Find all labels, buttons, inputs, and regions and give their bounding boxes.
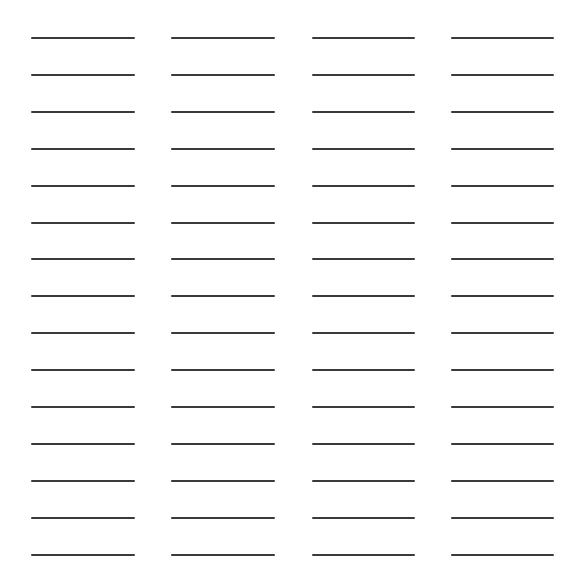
- blank-line-r7-c4: [451, 258, 554, 260]
- blank-line-r6-c2: [171, 222, 275, 224]
- blank-line-r2-c2: [171, 74, 275, 76]
- blank-line-r2-c1: [31, 74, 135, 76]
- blank-line-r8-c2: [171, 295, 275, 297]
- blank-line-r6-c1: [31, 222, 135, 224]
- blank-line-r13-c2: [171, 480, 275, 482]
- blank-line-r12-c2: [171, 443, 275, 445]
- blank-line-r15-c3: [312, 554, 415, 556]
- blank-line-r4-c3: [312, 148, 415, 150]
- blank-line-r14-c2: [171, 517, 275, 519]
- blank-line-r3-c4: [451, 111, 554, 113]
- blank-line-r11-c1: [31, 406, 135, 408]
- blank-line-r11-c4: [451, 406, 554, 408]
- blank-line-r10-c3: [312, 369, 415, 371]
- blank-line-r3-c2: [171, 111, 275, 113]
- blank-line-r10-c4: [451, 369, 554, 371]
- blank-line-r2-c3: [312, 74, 415, 76]
- blank-line-r1-c1: [31, 37, 135, 39]
- blank-line-r5-c4: [451, 185, 554, 187]
- blank-line-r4-c1: [31, 148, 135, 150]
- blank-line-r4-c2: [171, 148, 275, 150]
- blank-line-r11-c2: [171, 406, 275, 408]
- blank-line-r15-c1: [31, 554, 135, 556]
- blank-line-r10-c2: [171, 369, 275, 371]
- blank-line-r1-c3: [312, 37, 415, 39]
- blank-line-r13-c4: [451, 480, 554, 482]
- blank-line-r14-c4: [451, 517, 554, 519]
- blank-line-r1-c2: [171, 37, 275, 39]
- blank-line-r15-c4: [451, 554, 554, 556]
- blank-line-r13-c1: [31, 480, 135, 482]
- blank-line-r12-c4: [451, 443, 554, 445]
- blank-line-r13-c3: [312, 480, 415, 482]
- blank-line-r7-c2: [171, 258, 275, 260]
- blank-line-r15-c2: [171, 554, 275, 556]
- blank-line-r7-c3: [312, 258, 415, 260]
- blank-line-r5-c2: [171, 185, 275, 187]
- blank-line-r2-c4: [451, 74, 554, 76]
- blank-line-r1-c4: [451, 37, 554, 39]
- blank-line-r9-c4: [451, 332, 554, 334]
- blank-line-r3-c3: [312, 111, 415, 113]
- blank-line-r6-c3: [312, 222, 415, 224]
- worksheet-page: [0, 0, 583, 588]
- blank-line-r14-c1: [31, 517, 135, 519]
- blank-line-r12-c3: [312, 443, 415, 445]
- blank-line-r10-c1: [31, 369, 135, 371]
- blank-line-r4-c4: [451, 148, 554, 150]
- blank-line-r12-c1: [31, 443, 135, 445]
- blank-line-r8-c4: [451, 295, 554, 297]
- blank-line-r11-c3: [312, 406, 415, 408]
- blank-line-r8-c3: [312, 295, 415, 297]
- blank-line-r8-c1: [31, 295, 135, 297]
- blank-line-r9-c3: [312, 332, 415, 334]
- blank-line-r14-c3: [312, 517, 415, 519]
- blank-line-r3-c1: [31, 111, 135, 113]
- blank-line-r7-c1: [31, 258, 135, 260]
- blank-line-r5-c1: [31, 185, 135, 187]
- blank-line-r6-c4: [451, 222, 554, 224]
- blank-line-r9-c2: [171, 332, 275, 334]
- blank-line-r9-c1: [31, 332, 135, 334]
- blank-line-r5-c3: [312, 185, 415, 187]
